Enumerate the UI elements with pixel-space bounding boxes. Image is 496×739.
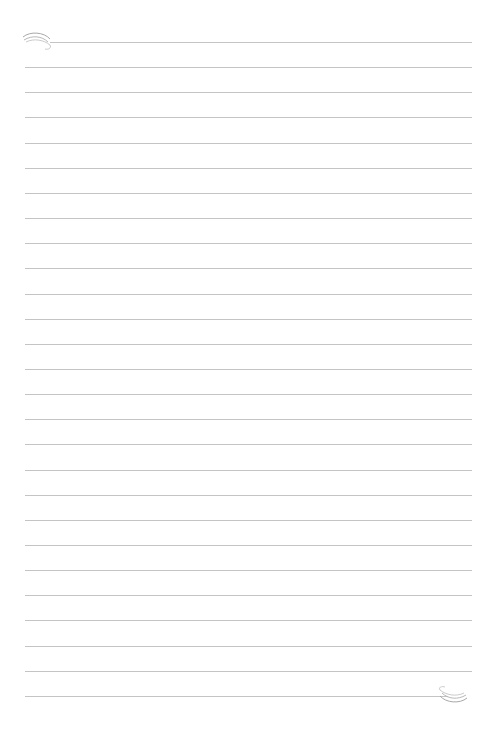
- top-left-swirl-icon: [20, 30, 56, 52]
- ruled-line: [25, 545, 472, 546]
- ruled-line: [25, 671, 472, 672]
- ruled-line: [25, 143, 472, 144]
- ruled-line: [25, 168, 472, 169]
- ruled-line: [25, 570, 472, 571]
- ruled-line: [25, 92, 472, 93]
- ruled-line: [25, 344, 472, 345]
- ruled-line: [25, 67, 472, 68]
- ruled-line: [25, 419, 472, 420]
- ruled-line: [25, 319, 472, 320]
- bottom-right-swirl-icon: [434, 686, 470, 708]
- ruled-line: [25, 595, 472, 596]
- ruled-line: [25, 218, 472, 219]
- ruled-line: [25, 520, 472, 521]
- ruled-line: [25, 696, 448, 697]
- ruled-line: [25, 470, 472, 471]
- ruled-line: [25, 620, 472, 621]
- lined-paper-page: [0, 0, 496, 739]
- ruled-line: [25, 369, 472, 370]
- ruled-line: [25, 646, 472, 647]
- ruled-line: [25, 394, 472, 395]
- ruled-line: [50, 42, 472, 43]
- ruled-line: [25, 444, 472, 445]
- ruled-line: [25, 193, 472, 194]
- ruled-line: [25, 294, 472, 295]
- ruled-line: [25, 268, 472, 269]
- ruled-line: [25, 495, 472, 496]
- ruled-line: [25, 243, 472, 244]
- ruled-line: [25, 117, 472, 118]
